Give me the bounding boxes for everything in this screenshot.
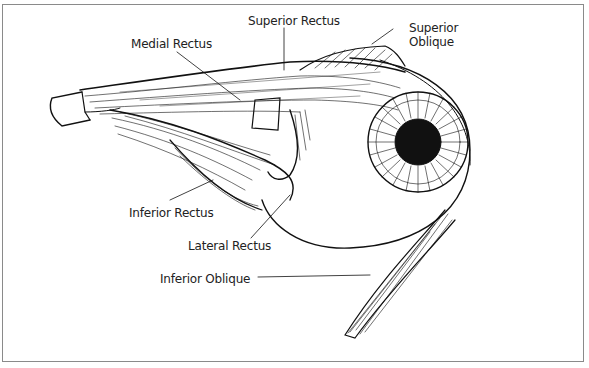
medial-rectus-block [252, 98, 280, 130]
superior-rectus-muscle [80, 61, 405, 90]
label-superior-oblique-line2: Oblique [409, 35, 454, 49]
label-lateral-rectus: Lateral Rectus [188, 239, 271, 253]
leader-inferior-rectus [170, 180, 213, 200]
leader-inferior-oblique [258, 275, 370, 277]
label-medial-rectus: Medial Rectus [131, 37, 212, 51]
inferior-rectus-muscle [110, 110, 293, 200]
pupil [395, 119, 441, 165]
label-superior-rectus: Superior Rectus [248, 14, 340, 28]
leader-medial-rectus [177, 52, 240, 100]
lateral-rectus-muscle [268, 110, 298, 179]
label-superior-oblique-line1: Superior [409, 21, 458, 35]
leader-superior-oblique [372, 29, 393, 44]
leader-lateral-rectus [251, 195, 290, 238]
label-inferior-oblique: Inferior Oblique [160, 272, 250, 286]
inferior-oblique-muscle [345, 210, 455, 338]
eye-muscle-illustration [0, 0, 589, 368]
label-inferior-rectus: Inferior Rectus [129, 206, 213, 220]
